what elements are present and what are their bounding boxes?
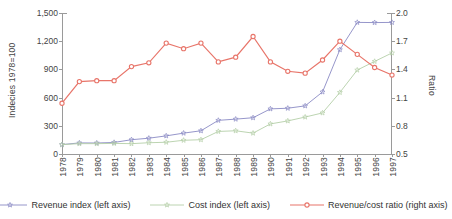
series-line: [62, 53, 392, 145]
series-1: [60, 20, 395, 147]
data-point-marker: [303, 71, 307, 75]
data-point-marker: [234, 55, 238, 59]
data-point-marker: [112, 79, 116, 83]
data-point-marker: [268, 60, 272, 64]
data-point-marker: [355, 52, 359, 56]
data-point-marker: [77, 80, 81, 84]
series-3: [60, 34, 394, 105]
data-point-marker: [251, 34, 255, 38]
data-point-marker: [373, 65, 377, 69]
data-point-marker: [390, 20, 395, 25]
series-line: [62, 37, 392, 104]
data-point-marker: [199, 41, 203, 45]
data-point-marker: [390, 50, 395, 55]
series-line: [62, 22, 392, 144]
data-point-marker: [181, 47, 185, 51]
data-point-marker: [216, 60, 220, 64]
data-point-marker: [60, 101, 64, 105]
data-point-marker: [147, 61, 151, 65]
data-point-marker: [320, 58, 324, 62]
data-point-marker: [286, 69, 290, 73]
data-point-marker: [95, 79, 99, 83]
data-point-marker: [338, 39, 342, 43]
data-point-marker: [164, 41, 168, 45]
data-point-marker: [390, 73, 394, 77]
series-2: [60, 50, 395, 146]
data-point-marker: [129, 64, 133, 68]
